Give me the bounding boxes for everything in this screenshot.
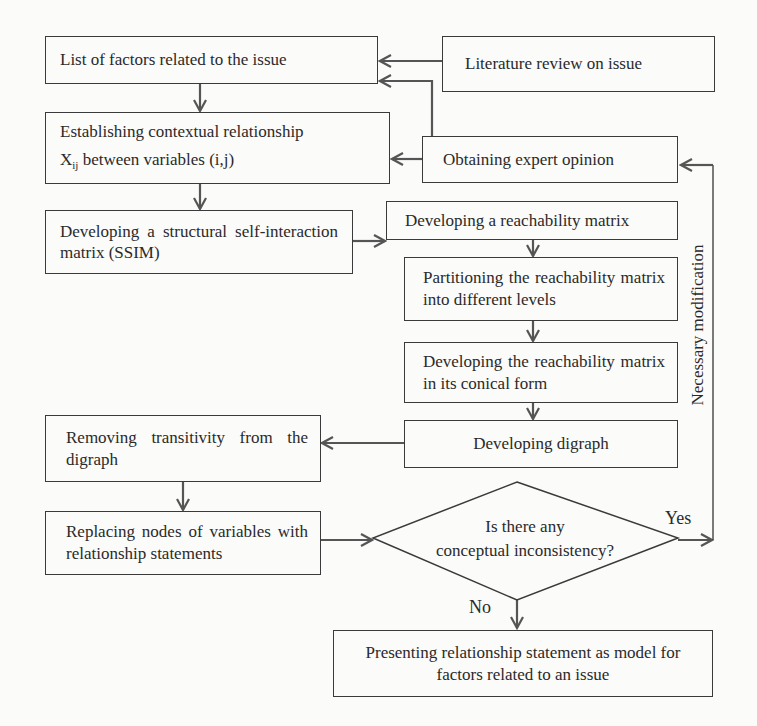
node-reachability-matrix: Developing a reachability matrix xyxy=(386,201,678,240)
flowchart-canvas: List of factors related to the issue Lit… xyxy=(0,0,757,726)
node-present-model-line2: factors related to an issue xyxy=(348,664,698,686)
edge-label-no: No xyxy=(469,597,491,618)
edge-label-necessary-modification-text: Necessary modification xyxy=(688,245,708,406)
node-reachability-matrix-label: Developing a reachability matrix xyxy=(405,210,663,232)
node-remove-transitivity: Removing transitivity from the digraph xyxy=(45,415,321,482)
node-remove-transitivity-label: Removing transitivity from the digraph xyxy=(66,427,308,471)
node-ssim: Developing a structural self-interaction… xyxy=(45,210,353,274)
node-digraph: Developing digraph xyxy=(404,420,678,468)
node-digraph-label: Developing digraph xyxy=(419,433,663,455)
xij-symbol: X xyxy=(60,150,72,169)
node-contextual-line2-text: between variables (i,j) xyxy=(78,150,234,169)
node-list-factors-label: List of factors related to the issue xyxy=(60,49,363,71)
node-literature-review-label: Literature review on issue xyxy=(465,53,700,75)
node-list-factors: List of factors related to the issue xyxy=(45,36,378,84)
node-literature-review: Literature review on issue xyxy=(442,36,715,92)
node-replace-nodes: Replacing nodes of variables with relati… xyxy=(45,511,321,575)
node-expert-opinion: Obtaining expert opinion xyxy=(422,136,678,183)
node-partitioning: Partitioning the reachability matrix int… xyxy=(404,257,678,321)
decision-label-line2: conceptual inconsistency? xyxy=(410,539,640,563)
node-expert-opinion-label: Obtaining expert opinion xyxy=(443,149,663,171)
node-conical-form-label: Developing the reachability matrix in it… xyxy=(423,351,665,395)
node-ssim-label: Developing a structural self-interaction… xyxy=(60,221,338,263)
node-conical-form: Developing the reachability matrix in it… xyxy=(404,342,678,403)
node-partitioning-label: Partitioning the reachability matrix int… xyxy=(423,267,665,311)
edge-label-yes: Yes xyxy=(665,508,691,529)
node-present-model: Presenting relationship statement as mod… xyxy=(333,630,713,697)
node-contextual-relationship: Establishing contextual relationship Xij… xyxy=(45,112,390,184)
decision-label: Is there any conceptual inconsistency? xyxy=(410,515,640,563)
node-replace-nodes-label: Replacing nodes of variables with relati… xyxy=(66,521,308,565)
node-contextual-line1: Establishing contextual relationship xyxy=(60,121,375,143)
node-contextual-line2: Xij between variables (i,j) xyxy=(60,149,375,176)
node-present-model-line1: Presenting relationship statement as mod… xyxy=(348,642,698,664)
decision-label-line1: Is there any xyxy=(410,515,640,539)
